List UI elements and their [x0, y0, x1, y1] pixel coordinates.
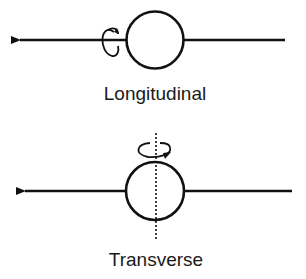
- sphere-circle: [126, 162, 184, 220]
- rotation-arrow-icon: [138, 143, 171, 159]
- sphere-circle: [127, 12, 184, 69]
- transverse-panel: Transverse: [25, 133, 292, 270]
- rotation-arrow-icon: [102, 28, 119, 56]
- transverse-label: Transverse: [109, 249, 203, 270]
- longitudinal-label: Longitudinal: [104, 83, 206, 104]
- longitudinal-panel: Longitudinal: [20, 12, 285, 105]
- rotation-diagram: Longitudinal Transverse: [0, 0, 306, 279]
